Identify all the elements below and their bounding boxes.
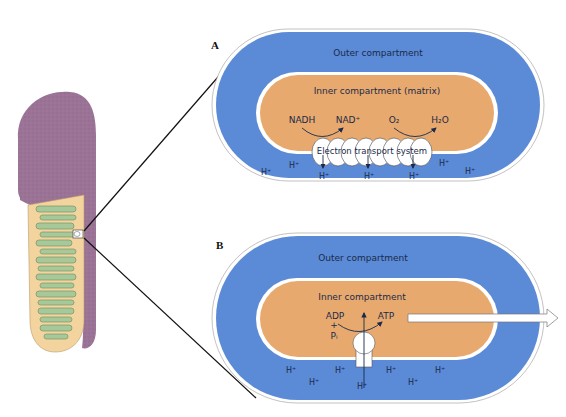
proton-label: H⁺ <box>309 378 319 387</box>
proton-label: H⁺ <box>364 172 374 181</box>
mitochondrion <box>18 92 96 352</box>
atp-label: ATP <box>378 311 395 321</box>
proton-label: H⁺ <box>435 366 445 375</box>
panel-a-letter: A <box>211 39 219 51</box>
nadh-label: NADH <box>289 115 316 125</box>
nad-plus-label: NAD⁺ <box>336 115 361 125</box>
panel-b-outer-label: Outer compartment <box>318 253 408 263</box>
proton-label: H⁺ <box>465 167 475 176</box>
panel-b: B Outer compartment Inner compartment AD… <box>212 233 558 403</box>
h2o-label: H₂O <box>431 115 448 125</box>
plus-label: + <box>330 320 338 330</box>
panel-a-outer-label: Outer compartment <box>333 48 423 58</box>
proton-label: H⁺ <box>319 172 329 181</box>
proton-label: H⁺ <box>386 366 396 375</box>
proton-label: H⁺ <box>289 161 299 170</box>
proton-label: H⁺ <box>408 378 418 387</box>
pi-label: Pᵢ <box>330 331 337 341</box>
o2-label: O₂ <box>389 115 400 125</box>
proton-label: H⁺ <box>261 168 271 177</box>
proton-label: H⁺ <box>439 159 449 168</box>
proton-label: H⁺ <box>357 382 367 391</box>
proton-label: H⁺ <box>286 366 296 375</box>
panel-b-letter: B <box>216 239 224 251</box>
panel-a-inner-label: Inner compartment (matrix) <box>314 86 441 96</box>
zoom-line-top <box>84 54 238 231</box>
proton-label: H⁺ <box>335 366 345 375</box>
panel-b-inner-label: Inner compartment <box>318 292 406 302</box>
mitochondrion-cap <box>18 94 93 205</box>
panel-a: A Outer compartment Inner compartment (m… <box>211 29 544 181</box>
mitochondria-diagram: A Outer compartment Inner compartment (m… <box>0 0 566 417</box>
ets-label: Electron transport system <box>317 146 427 156</box>
proton-label: H⁺ <box>409 172 419 181</box>
